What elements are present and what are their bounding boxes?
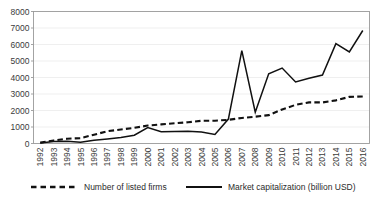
- y-tick-label: 2000: [11, 106, 30, 116]
- y-tick-label: 4000: [11, 73, 30, 83]
- y-tick-label: 3000: [11, 89, 30, 99]
- gridlines: [34, 12, 370, 128]
- x-tick-label: 2015: [344, 147, 354, 166]
- x-tick-label: 2014: [331, 147, 341, 166]
- x-axis-tick-labels: 1992199319941995199619971998199920002001…: [35, 147, 368, 166]
- x-tick-label: 2005: [210, 147, 220, 166]
- x-tick-label: 2007: [237, 147, 247, 166]
- x-tick-label: 1992: [35, 147, 45, 166]
- legend-label-0: Number of listed firms: [84, 182, 167, 192]
- x-tick-label: 2008: [250, 147, 260, 166]
- series-line-market-cap: [40, 30, 363, 143]
- x-tick-label: 2013: [317, 147, 327, 166]
- x-tick-label: 2000: [143, 147, 153, 166]
- y-tick-label: 7000: [11, 23, 30, 33]
- y-tick-label: 6000: [11, 40, 30, 50]
- x-tick-label: 1997: [102, 147, 112, 166]
- chart-legend: Number of listed firmsMarket capitalizat…: [31, 182, 356, 192]
- x-tick-label: 1999: [129, 147, 139, 166]
- line-chart: 010002000300040005000600070008000 199219…: [0, 0, 375, 199]
- y-tick-label: 1000: [11, 122, 30, 132]
- chart-container: 010002000300040005000600070008000 199219…: [0, 0, 375, 199]
- x-tick-label: 1994: [62, 147, 72, 166]
- x-tick-label: 2004: [197, 147, 207, 166]
- x-tick-label: 1998: [116, 147, 126, 166]
- x-tick-label: 1993: [49, 147, 59, 166]
- x-tick-label: 1996: [89, 147, 99, 166]
- series-line-listed-firms: [40, 96, 363, 142]
- x-tick-label: 2011: [291, 147, 301, 166]
- x-tick-label: 2009: [264, 147, 274, 166]
- legend-label-1: Market capitalization (billion USD): [228, 182, 356, 192]
- x-tick-label: 2001: [156, 147, 166, 166]
- y-tick-label: 0: [25, 139, 30, 149]
- x-tick-label: 2006: [223, 147, 233, 166]
- x-tick-label: 2016: [358, 147, 368, 166]
- series-group: [40, 30, 363, 143]
- x-tick-label: 2012: [304, 147, 314, 166]
- y-tick-label: 8000: [11, 7, 30, 17]
- x-tick-label: 2003: [183, 147, 193, 166]
- y-tick-label: 5000: [11, 56, 30, 66]
- x-tick-label: 1995: [76, 147, 86, 166]
- y-axis-tick-labels: 010002000300040005000600070008000: [11, 7, 30, 149]
- x-tick-label: 2010: [277, 147, 287, 166]
- x-tick-label: 2002: [170, 147, 180, 166]
